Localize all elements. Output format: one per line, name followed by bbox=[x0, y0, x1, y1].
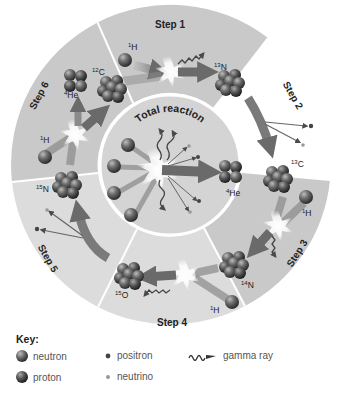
neutrino-dot-icon bbox=[104, 373, 112, 381]
key-label-neutron: neutron bbox=[33, 351, 67, 362]
key-label-positron: positron bbox=[117, 350, 153, 361]
gamma-ray-wave-icon bbox=[188, 351, 218, 361]
step-1-label: Step 1 bbox=[155, 19, 185, 30]
neutron-sphere-icon bbox=[16, 350, 28, 362]
key-label-proton: proton bbox=[33, 372, 61, 383]
key-title: Key: bbox=[16, 333, 39, 345]
key-item-neutrino: neutrino bbox=[104, 371, 153, 382]
key-item-positron: positron bbox=[104, 350, 153, 361]
key-label-gamma-ray: gamma ray bbox=[223, 350, 273, 361]
key-item-neutron: neutron bbox=[16, 350, 67, 362]
key-item-proton: proton bbox=[16, 371, 61, 383]
proton-sphere-icon bbox=[16, 371, 28, 383]
key-label-neutrino: neutrino bbox=[117, 371, 153, 382]
key-item-gamma-ray: gamma ray bbox=[188, 350, 273, 361]
cno-cycle-diagram: Step 1 Step 2 Step 3 Step 4 Step 5 Step … bbox=[0, 0, 340, 330]
step-4-label: Step 4 bbox=[157, 317, 187, 328]
positron-dot-icon bbox=[104, 352, 112, 360]
